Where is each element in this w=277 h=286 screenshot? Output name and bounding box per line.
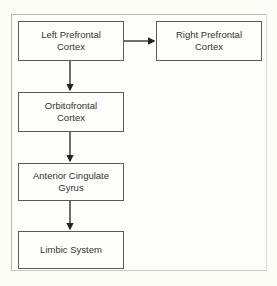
edges-layer [0, 0, 277, 286]
